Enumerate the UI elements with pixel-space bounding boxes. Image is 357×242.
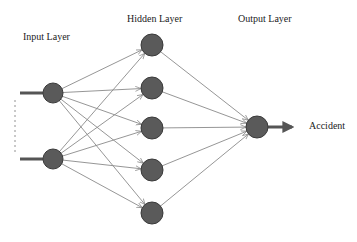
hidden-node-3 — [141, 117, 163, 139]
edge-input2-hidden5 — [53, 159, 142, 208]
hidden-node-4 — [141, 159, 163, 181]
hidden-node-5 — [141, 202, 163, 224]
edge-hidden4-output1 — [152, 131, 247, 170]
neural-network-diagram — [0, 0, 357, 242]
edge-input2-hidden4 — [53, 159, 141, 169]
hidden-node-1 — [141, 34, 163, 56]
nodes — [43, 34, 268, 224]
input-node-1 — [43, 83, 63, 103]
edge-input2-hidden1 — [53, 53, 145, 159]
edge-hidden1-output1 — [152, 45, 248, 120]
edge-input2-hidden3 — [53, 131, 142, 159]
output-node-1 — [246, 116, 268, 138]
edge-input2-hidden2 — [53, 94, 143, 159]
edge-input1-hidden2 — [53, 89, 141, 93]
edge-hidden3-output1 — [152, 127, 246, 128]
edge-hidden5-output1 — [152, 134, 248, 213]
hidden-node-2 — [141, 77, 163, 99]
input-node-2 — [43, 149, 63, 169]
edge-hidden2-output1 — [152, 88, 247, 123]
